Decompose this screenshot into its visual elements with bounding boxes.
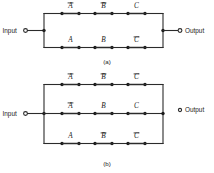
branch-a-1: A B C [60, 2, 163, 15]
input-label-a: Input [3, 27, 17, 35]
panel-b: A B C A [3, 73, 205, 167]
branch-b-2: A B C [60, 102, 163, 115]
contact-label-a-1-1: A [67, 2, 73, 10]
input-label-b: Input [3, 110, 17, 118]
caption-a: (a) [103, 58, 111, 65]
input-terminal-b[interactable] [24, 112, 28, 116]
output-label-b: Output [185, 106, 204, 114]
output-label-a: Output [185, 27, 204, 35]
input-terminal-a[interactable] [24, 29, 28, 33]
figure-root: A B C [0, 0, 214, 173]
contact-label-b-2-3: C [134, 102, 139, 110]
circuit-svg: A B C [0, 0, 214, 173]
branch-b-3: A B C [60, 132, 163, 145]
contact-label-b-1-2: B [101, 73, 106, 81]
output-terminal-b[interactable] [178, 108, 181, 111]
contact-label-a-2-3: C [134, 36, 139, 44]
contact-label-b-3-3: C [134, 132, 139, 140]
contact-label-b-2-2: B [101, 102, 106, 110]
branch-b-1: A B C [60, 73, 163, 86]
contact-label-a-2-2: B [101, 36, 106, 44]
contact-label-b-1-3: C [134, 73, 139, 81]
contact-label-b-3-2: B [101, 132, 106, 140]
panel-a: A B C [3, 2, 205, 65]
branch-a-2: A B C [60, 36, 163, 49]
contact-label-b-1-1: A [67, 73, 73, 81]
contact-label-a-1-2: B [101, 2, 106, 10]
contact-label-a-2-1: A [67, 36, 73, 44]
contact-label-a-1-3: C [134, 2, 139, 10]
output-terminal-a[interactable] [178, 29, 182, 33]
output-junction-dot-b [161, 112, 164, 115]
contact-label-b-2-1: A [67, 102, 73, 110]
caption-b: (b) [103, 160, 111, 167]
contact-label-b-3-1: A [67, 132, 73, 140]
